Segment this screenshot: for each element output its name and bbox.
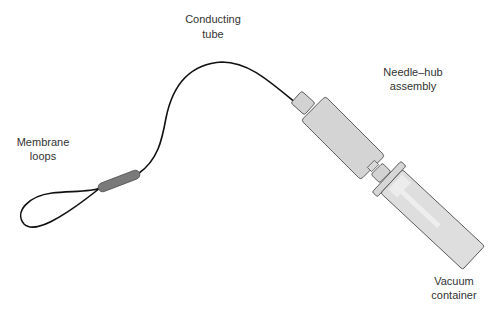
conducting-tube — [138, 62, 297, 174]
tube-sleeve — [97, 169, 141, 193]
vacuum-container — [372, 161, 488, 273]
catheter-collection-diagram: Membrane loops Conducting tube Needle–hu… — [0, 0, 496, 311]
label-membrane-loops: Membrane loops — [17, 136, 70, 162]
label-vacuum-container: Vacuum container — [431, 275, 477, 301]
label-membrane-loops-line2: loops — [30, 150, 57, 162]
needle-hub-assembly — [291, 91, 391, 183]
label-membrane-loops-line1: Membrane — [17, 136, 70, 148]
label-needle-hub-line2: assembly — [390, 80, 437, 92]
label-vacuum-container-line2: container — [431, 289, 477, 301]
label-conducting-tube-line2: tube — [202, 28, 223, 40]
label-conducting-tube: Conducting tube — [185, 13, 241, 40]
label-needle-hub-assembly: Needle–hub assembly — [383, 66, 442, 92]
membrane-loop — [21, 188, 100, 227]
label-vacuum-container-line1: Vacuum — [434, 275, 474, 287]
label-conducting-tube-line1: Conducting — [185, 13, 241, 25]
label-needle-hub-line1: Needle–hub — [383, 66, 442, 78]
